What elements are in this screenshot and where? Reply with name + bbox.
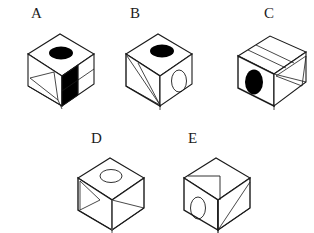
option-label-e: E <box>188 131 197 146</box>
cube-figure-a[interactable] <box>20 26 102 110</box>
cube-figure-b[interactable] <box>118 26 200 110</box>
option-label-c: C <box>264 6 274 21</box>
cube-a-top-filled-ellipse <box>49 47 73 60</box>
cube-c-left-filled-ellipse <box>245 70 263 95</box>
cube-figure-d[interactable] <box>70 152 154 233</box>
figure-canvas: A B <box>0 0 314 233</box>
option-label-a: A <box>31 6 42 21</box>
option-label-b: B <box>130 6 140 21</box>
cube-b-top-filled-ellipse <box>150 45 174 58</box>
cube-figure-c[interactable] <box>230 26 314 110</box>
option-label-d: D <box>91 131 102 146</box>
cube-figure-e[interactable] <box>176 152 260 233</box>
